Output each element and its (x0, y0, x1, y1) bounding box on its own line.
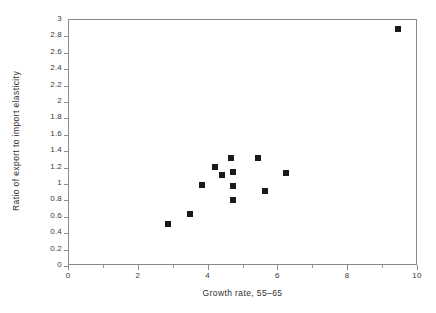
data-point (230, 169, 236, 175)
data-point (212, 164, 218, 170)
y-tick-mark (64, 151, 69, 152)
y-tick-label: 3 (2, 15, 62, 23)
y-tick-mark (64, 86, 69, 87)
y-tick-mark (64, 102, 69, 103)
y-tick-mark (64, 135, 69, 136)
x-minor-tick-mark (173, 265, 174, 268)
y-tick-mark (64, 200, 69, 201)
y-tick-mark (64, 168, 69, 169)
y-tick-mark (64, 217, 69, 218)
x-tick-label: 10 (397, 272, 436, 280)
x-tick-mark (347, 265, 348, 270)
y-tick-mark (64, 69, 69, 70)
data-point (219, 172, 225, 178)
x-tick-mark (417, 265, 418, 270)
x-axis-label: Growth rate, 55–65 (68, 288, 417, 298)
x-tick-label: 6 (257, 272, 297, 280)
x-minor-tick-mark (243, 265, 244, 268)
plot-area (68, 19, 417, 265)
x-tick-mark (68, 265, 69, 270)
data-point (228, 155, 234, 161)
data-point (187, 211, 193, 217)
x-tick-label: 0 (48, 272, 88, 280)
x-tick-mark (208, 265, 209, 270)
data-point (165, 221, 171, 227)
x-tick-label: 4 (188, 272, 228, 280)
data-point (230, 197, 236, 203)
x-minor-tick-mark (312, 265, 313, 268)
data-point (255, 155, 261, 161)
data-point (395, 26, 401, 32)
x-minor-tick-mark (103, 265, 104, 268)
data-point (199, 182, 205, 188)
y-axis-label: Ratio of export to import elasticity (11, 41, 21, 241)
y-tick-label: 0.2 (2, 245, 62, 253)
x-axis-ticks: 0246810 (68, 265, 417, 287)
x-tick-label: 2 (118, 272, 158, 280)
x-minor-tick-mark (382, 265, 383, 268)
y-tick-mark (64, 233, 69, 234)
x-tick-mark (138, 265, 139, 270)
y-tick-mark (64, 184, 69, 185)
data-point (283, 170, 289, 176)
scatter-chart-figure: 00.20.40.60.811.21.41.61.822.22.42.62.83… (0, 0, 436, 313)
data-point (230, 183, 236, 189)
x-tick-label: 8 (327, 272, 367, 280)
y-tick-mark (64, 118, 69, 119)
data-point (262, 188, 268, 194)
x-tick-mark (277, 265, 278, 270)
y-tick-mark (64, 53, 69, 54)
y-tick-mark (64, 250, 69, 251)
y-tick-label: 0 (2, 261, 62, 269)
y-tick-mark (64, 36, 69, 37)
y-tick-label: 2.8 (2, 31, 62, 39)
